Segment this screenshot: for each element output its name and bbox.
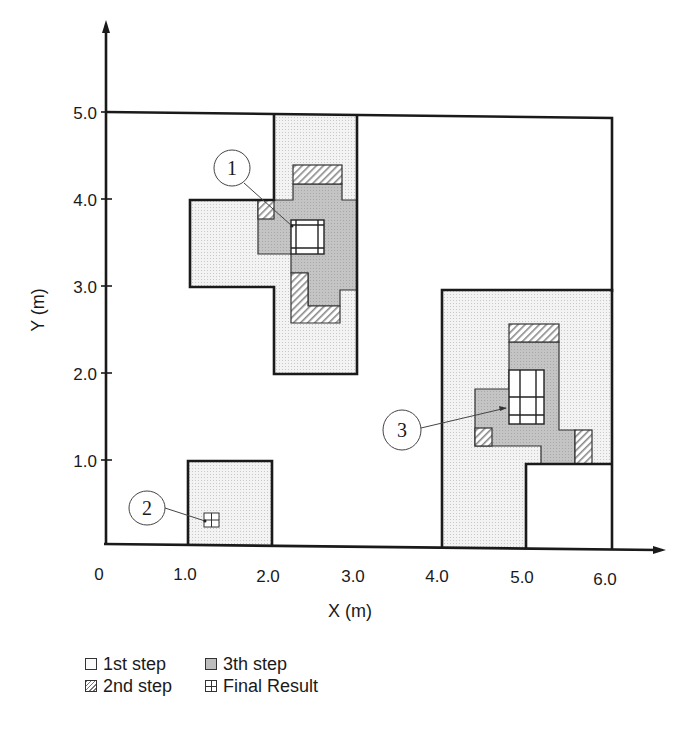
legend-item-first-step: 1st step	[85, 653, 205, 675]
third-step-swatch-icon	[205, 658, 217, 670]
region-3-final-result	[509, 370, 544, 424]
first-step-swatch-icon	[85, 658, 97, 670]
x-tick-5: 5.0	[510, 568, 534, 587]
legend-label-final-result: Final Result	[223, 675, 318, 697]
x-axis	[104, 544, 658, 550]
x-tick-0: 0	[94, 565, 103, 584]
legend: 1st step 3th step 2nd step Final Result	[85, 653, 365, 697]
y-tick-2: 2.0	[73, 365, 97, 384]
region-1-second-step-top	[293, 165, 342, 184]
region-2	[188, 461, 272, 545]
final-result-grid-icon	[205, 680, 217, 692]
x-tick-4: 4.0	[425, 567, 449, 586]
y-tick-3: 3.0	[73, 278, 97, 297]
x-axis-title: X (m)	[328, 601, 372, 621]
y-axis-title: Y (m)	[28, 288, 48, 332]
region-3-second-step-top	[509, 324, 559, 342]
legend-label-second-step: 2nd step	[103, 675, 172, 697]
legend-label-third-step: 3th step	[223, 653, 287, 675]
region-3-second-step-right	[575, 430, 592, 464]
legend-item-final-result: Final Result	[205, 675, 365, 697]
outer-wall-top	[106, 112, 612, 292]
x-axis-arrow-icon	[653, 546, 666, 554]
diagram-canvas: 5.0 4.0 3.0 2.0 1.0 0 1.0 2.0 3.0 4.0 5.…	[0, 0, 689, 743]
x-tick-2: 2.0	[256, 567, 280, 586]
region-2-final-result	[204, 513, 219, 527]
x-tick-3: 3.0	[341, 567, 365, 586]
x-tick-6: 6.0	[593, 570, 617, 589]
y-tick-5: 5.0	[73, 104, 97, 123]
y-axis-arrow-icon	[102, 20, 110, 33]
x-tick-1: 1.0	[173, 565, 197, 584]
region-2-first-step	[188, 461, 272, 545]
callout-2-label: 2	[142, 497, 152, 519]
callout-1-label: 1	[227, 157, 237, 179]
region-1-final-result	[291, 220, 324, 254]
y-tick-4: 4.0	[73, 191, 97, 210]
legend-label-first-step: 1st step	[103, 653, 166, 675]
second-step-swatch-icon	[85, 680, 97, 692]
region-3-inner-block	[526, 464, 612, 549]
callout-3-label: 3	[397, 419, 407, 441]
legend-item-second-step: 2nd step	[85, 675, 205, 697]
region-3-second-step-left	[475, 428, 492, 446]
legend-item-third-step: 3th step	[205, 653, 365, 675]
y-tick-1: 1.0	[73, 452, 97, 471]
